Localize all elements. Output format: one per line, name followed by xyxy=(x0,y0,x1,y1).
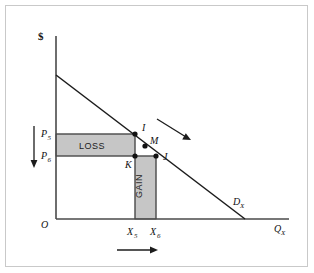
point-m-dot xyxy=(142,143,147,148)
y-axis-label: $ xyxy=(38,30,44,42)
loss-region-label: LOSS xyxy=(79,141,105,151)
quantity-x5-sub: 5 xyxy=(134,232,138,240)
point-i-dot xyxy=(132,131,137,136)
price-decrease-arrow-head xyxy=(31,160,38,168)
curve-movement-arrow-head xyxy=(182,133,191,140)
curve-movement-arrow-shaft xyxy=(157,119,186,137)
price-p6-label: P xyxy=(40,150,47,161)
point-k-label: K xyxy=(124,159,133,170)
quantity-x6-sub: 6 xyxy=(157,232,161,240)
demand-curve-chart: $ O Q X D X P 5 P 6 X 5 X 6 LOSS GAIN I … xyxy=(0,0,314,273)
x-axis-label-sub: X xyxy=(280,229,286,237)
gain-region-label: GAIN xyxy=(134,174,144,198)
origin-label: O xyxy=(41,219,48,230)
point-j-label: J xyxy=(163,151,168,162)
quantity-x5-label: X xyxy=(126,226,134,237)
point-k-dot xyxy=(132,153,137,158)
quantity-x6-label: X xyxy=(149,226,157,237)
point-i-label: I xyxy=(141,122,146,133)
quantity-increase-arrow-head xyxy=(150,247,158,254)
point-j-dot xyxy=(153,153,158,158)
point-m-label: M xyxy=(149,135,159,146)
price-p5-label: P xyxy=(40,128,47,139)
demand-curve-label-sub: X xyxy=(239,202,245,210)
figure-root: $ O Q X D X P 5 P 6 X 5 X 6 LOSS GAIN I … xyxy=(0,0,314,273)
price-p5-sub: 5 xyxy=(48,134,52,142)
price-p6-sub: 6 xyxy=(48,156,52,164)
